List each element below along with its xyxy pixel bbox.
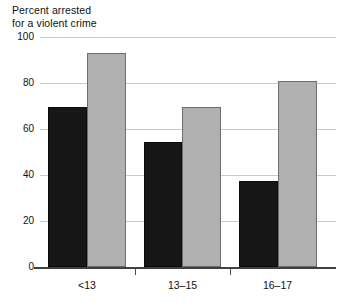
y-axis-tick-label-0: 0 <box>0 262 34 272</box>
bar-series1-cat1 <box>48 107 87 267</box>
bar-series2-cat3 <box>278 81 317 267</box>
y-axis-tick-label-100: 100 <box>0 32 34 42</box>
x-axis-baseline <box>34 267 336 269</box>
x-axis-tick-2 <box>230 268 231 275</box>
bar-series1-cat3 <box>239 181 278 267</box>
bar-series1-cat2 <box>144 142 182 267</box>
bar-series2-cat1 <box>87 53 126 267</box>
x-axis-label-lt13: <13 <box>47 279 127 291</box>
chart-title-line-1: Percent arrested <box>12 4 97 17</box>
chart-title: Percent arrested for a violent crime <box>12 4 97 30</box>
x-axis-tick-1 <box>135 268 136 275</box>
bar-chart: Percent arrested for a violent crime 100… <box>0 0 347 303</box>
y-axis-tick-label-80: 80 <box>0 78 34 88</box>
bar-series2-cat2 <box>182 107 221 267</box>
y-axis-tick-label-20: 20 <box>0 216 34 226</box>
x-axis-label-13-15: 13–15 <box>143 279 222 291</box>
gridline-100 <box>40 37 336 38</box>
y-axis-tick-label-40: 40 <box>0 170 34 180</box>
x-axis-label-16-17: 16–17 <box>238 279 317 291</box>
y-axis-tick-label-60: 60 <box>0 124 34 134</box>
chart-title-line-2: for a violent crime <box>12 17 97 30</box>
